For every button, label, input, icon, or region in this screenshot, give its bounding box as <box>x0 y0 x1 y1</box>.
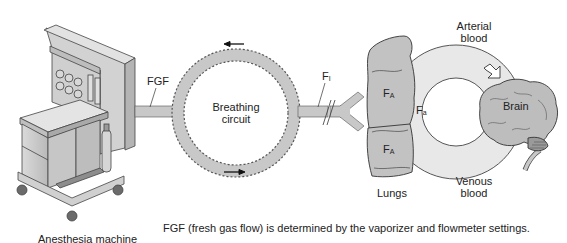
lungs-label: Lungs <box>377 187 407 199</box>
y-piece-connector <box>340 92 364 131</box>
venous-blood-label: Venous blood <box>444 175 504 199</box>
fa-upper-lung-label: FA <box>383 87 394 102</box>
fgf-tube <box>135 106 177 117</box>
fa-lower-lung-label: FA <box>383 143 394 158</box>
anesthesia-machine-label: Anesthesia machine <box>38 233 137 243</box>
arterial-blood-label: Arterial blood <box>444 20 504 44</box>
fi-label: FI <box>322 70 331 85</box>
fgf-label: FGF <box>147 75 169 87</box>
breathing-circuit-label-line1: Breathing <box>206 101 266 113</box>
fa-blood-label: Fa <box>416 104 427 119</box>
anesthesia-machine-icon <box>17 25 135 221</box>
diagram: FGF Breathing circuit FI FA FA Fa Lungs … <box>0 0 567 243</box>
caption: FGF (fresh gas flow) is determined by th… <box>163 222 530 234</box>
breathing-circuit-label-line2: circuit <box>206 113 266 125</box>
fgf-leader-line <box>150 88 156 107</box>
breathing-circuit-label: Breathing circuit <box>206 101 266 125</box>
brain-label: Brain <box>503 100 529 112</box>
fi-leader-line <box>318 83 325 107</box>
